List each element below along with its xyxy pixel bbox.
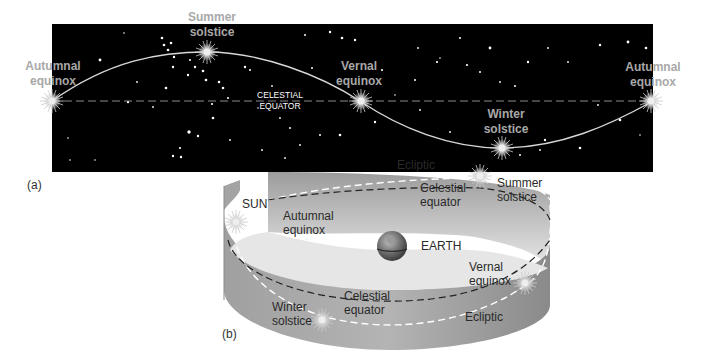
vernal-equinox-label-b: Vernal equinox [469,260,511,288]
panel-a-label: (a) [27,178,42,192]
autumnal-equinox-right-label: Autumnal equinox [620,60,686,90]
autumnal-equinox-label-b: Autumnal equinox [283,209,334,237]
earth-globe [377,231,407,261]
winter-solstice-label: Winter solstice [478,107,534,137]
ecliptic-bottom-label: Ecliptic [465,310,503,324]
celestial-equator-label: CELESTIAL EQUATOR [250,90,310,112]
vernal-equinox-label: Vernal equinox [334,59,384,89]
summer-solstice-label: Summer solstice [180,10,244,40]
winter-solstice-label-b: Winter solstice [272,300,312,328]
summer-solstice-label-b: Summer solstice [497,176,542,204]
celestial-equator-bottom-label: Celestial equator [344,289,390,317]
panel-b-label: (b) [222,327,237,341]
sun-label: SUN [242,197,267,211]
ecliptic-top-label: Ecliptic [397,158,435,172]
earth-label: EARTH [421,239,461,253]
celestial-equator-top-label: Celestial equator [420,181,466,209]
autumnal-equinox-left-label: Autumnal equinox [20,59,86,89]
